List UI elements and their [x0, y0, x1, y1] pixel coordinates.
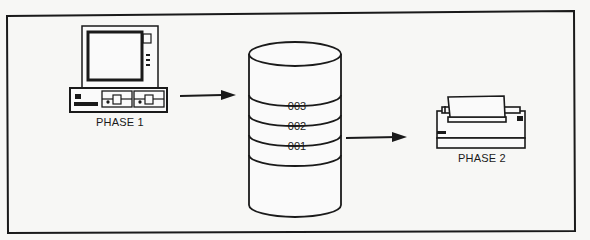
arrow-storage-to-phase2	[346, 132, 407, 142]
storage-segment-001: 001	[267, 140, 327, 152]
storage-segment-003: 003	[267, 100, 327, 112]
diagram-canvas: PHASE 1 003 002 001 PHASE 2	[0, 0, 590, 240]
phase2-label: PHASE 2	[458, 152, 506, 164]
phase1-label: PHASE 1	[96, 116, 144, 128]
desktop-computer-icon	[70, 26, 167, 112]
arrow-phase1-to-storage	[180, 90, 236, 100]
storage-segment-002: 002	[267, 120, 327, 132]
printer-icon	[437, 96, 525, 148]
